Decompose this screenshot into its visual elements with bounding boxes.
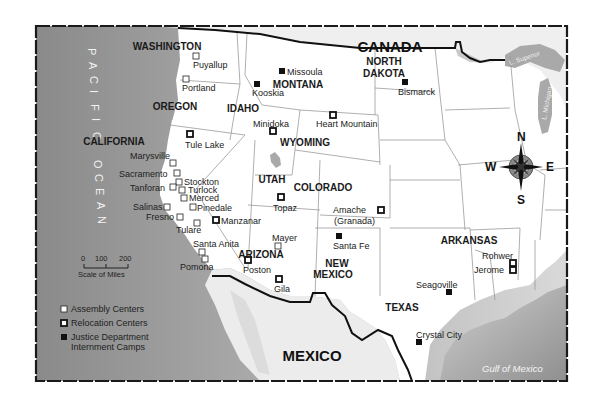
assembly-center-icon bbox=[181, 195, 187, 201]
ocean-letter: A bbox=[95, 202, 107, 210]
legend-justice-label-2: Internment Camps bbox=[71, 342, 146, 352]
site-jerome: Jerome bbox=[474, 265, 516, 275]
scale-caption: Scale of Miles bbox=[78, 270, 125, 279]
relocation-center-icon bbox=[245, 257, 251, 263]
assembly-center-icon bbox=[193, 53, 199, 59]
state-label: CALIFORNIA bbox=[83, 136, 145, 147]
legend-assembly-label: Assembly Centers bbox=[71, 304, 145, 314]
assembly-center-icon bbox=[199, 249, 205, 255]
site-label: Santa Fe bbox=[333, 241, 370, 251]
legend-relocation-icon bbox=[61, 320, 67, 326]
state-label: DAKOTA bbox=[363, 68, 405, 79]
ocean-letter: I bbox=[90, 118, 102, 122]
site-label: Tanforan bbox=[130, 183, 165, 193]
site-label: Portland bbox=[182, 83, 216, 93]
site-label: Salinas bbox=[133, 202, 163, 212]
site-label: Missoula bbox=[287, 67, 323, 77]
legend-assembly-icon bbox=[61, 306, 67, 312]
site-label: Sacramento bbox=[119, 169, 168, 179]
scale-tick-100: 100 bbox=[95, 254, 108, 263]
country-label-canada: CANADA bbox=[358, 38, 423, 55]
justice-camp-icon bbox=[336, 233, 342, 239]
assembly-center-icon bbox=[170, 184, 176, 190]
justice-camp-icon bbox=[402, 79, 408, 85]
state-label: OREGON bbox=[153, 101, 197, 112]
assembly-center-icon bbox=[190, 204, 196, 210]
justice-camp-icon bbox=[279, 68, 285, 74]
site-label: Amache bbox=[333, 205, 366, 215]
site-label: Tule Lake bbox=[185, 140, 224, 150]
site-label: Santa Anita bbox=[193, 239, 239, 249]
state-label: MEXICO bbox=[313, 269, 353, 280]
state-label: NEW bbox=[325, 258, 349, 269]
state-label: WYOMING bbox=[280, 137, 330, 148]
site-label: Merced bbox=[189, 193, 219, 203]
site-label: Topaz bbox=[273, 203, 298, 213]
relocation-center-icon bbox=[330, 112, 336, 118]
assembly-center-icon bbox=[164, 204, 170, 210]
relocation-center-icon bbox=[378, 207, 384, 213]
ocean-letter: P bbox=[86, 48, 98, 56]
assembly-center-icon bbox=[170, 160, 176, 166]
state-label: WASHINGTON bbox=[133, 41, 202, 52]
site-label: Gila bbox=[274, 284, 290, 294]
justice-camp-icon bbox=[254, 81, 260, 87]
site-pinedale: Pinedale bbox=[190, 203, 232, 213]
assembly-center-icon bbox=[179, 187, 185, 193]
site-label: Heart Mountain bbox=[316, 119, 378, 129]
assembly-center-icon bbox=[275, 243, 281, 249]
legend-justice-label: Justice Department bbox=[71, 332, 149, 342]
site-label: Fresno bbox=[146, 212, 174, 222]
ocean-letter: A bbox=[87, 62, 99, 70]
compass-e: E bbox=[546, 160, 554, 174]
site-label: Puyallup bbox=[193, 60, 228, 70]
site-label: Mayer bbox=[272, 233, 297, 243]
assembly-center-icon bbox=[176, 179, 182, 185]
site-label: Minidoka bbox=[253, 119, 289, 129]
ocean-letter: I bbox=[88, 90, 100, 94]
legend-justice-icon bbox=[61, 334, 67, 340]
site-label: Kooskia bbox=[252, 88, 284, 98]
state-label: NORTH bbox=[366, 56, 402, 67]
site-label: Jerome bbox=[474, 265, 504, 275]
ocean-letter: O bbox=[92, 160, 104, 170]
scale-tick-0: 0 bbox=[81, 254, 85, 263]
site-label: Poston bbox=[243, 265, 271, 275]
ocean-letter: F bbox=[89, 104, 101, 112]
ocean-letter: C bbox=[93, 174, 105, 183]
site-label: Tulare bbox=[176, 225, 201, 235]
relocation-center-icon bbox=[213, 217, 219, 223]
site-label: Manzanar bbox=[221, 216, 261, 226]
site-label: (Granada) bbox=[334, 216, 375, 226]
site-granada: (Granada) bbox=[334, 216, 375, 226]
relocation-center-icon bbox=[510, 267, 516, 273]
site-label: Pomona bbox=[180, 262, 214, 272]
internment-camps-map: PACIFIC OCEAN Gulf of Mexico L. Superior… bbox=[0, 0, 595, 404]
site-label: Bismarck bbox=[398, 87, 436, 97]
assembly-center-icon bbox=[183, 76, 189, 82]
state-label: UTAH bbox=[258, 174, 285, 185]
site-manzanar: Manzanar bbox=[213, 216, 261, 226]
site-label: Marysville bbox=[130, 151, 170, 161]
relocation-center-icon bbox=[187, 131, 193, 137]
compass-n: N bbox=[517, 130, 526, 144]
ocean-letter: C bbox=[88, 76, 100, 85]
ocean-letter: E bbox=[94, 188, 106, 196]
state-label: ARKANSAS bbox=[441, 235, 498, 246]
relocation-center-icon bbox=[278, 194, 284, 200]
assembly-center-icon bbox=[174, 170, 180, 176]
site-label: Rohwer bbox=[482, 251, 513, 261]
scale-tick-200: 200 bbox=[119, 254, 132, 263]
country-label-mexico: MEXICO bbox=[282, 347, 342, 364]
state-label: COLORADO bbox=[294, 182, 353, 193]
relocation-center-icon bbox=[276, 276, 282, 282]
ocean-letter: N bbox=[96, 216, 108, 225]
legend-relocation-label: Relocation Centers bbox=[71, 318, 148, 328]
site-label: Pinedale bbox=[197, 203, 232, 213]
gulf-of-mexico-label: Gulf of Mexico bbox=[482, 363, 543, 374]
compass-w: W bbox=[485, 160, 497, 174]
assembly-center-icon bbox=[177, 214, 183, 220]
site-label: Seagoville bbox=[416, 280, 458, 290]
state-label: IDAHO bbox=[227, 103, 259, 114]
compass-s: S bbox=[517, 193, 525, 207]
